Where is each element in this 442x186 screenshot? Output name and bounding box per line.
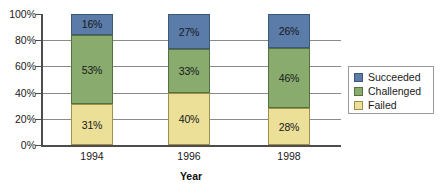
legend-swatch-icon [354,73,363,82]
bar-group-1994[interactable]: 16% 53% 31% [71,14,113,145]
bar-segment-failed[interactable]: 28% [268,108,310,145]
bar-segment-succeeded[interactable]: 26% [268,14,310,48]
bar-segment-challenged[interactable]: 46% [268,48,310,108]
bar-segment-label: 27% [179,27,200,37]
bar-segment-challenged[interactable]: 53% [71,35,113,104]
y-tick-label-80: 80% [0,35,36,45]
bar-segment-label: 46% [279,73,300,83]
x-axis-line [41,145,341,147]
bar-segment-label: 33% [179,66,200,76]
bar-segment-label: 53% [82,65,103,75]
y-axis-labels: 100% 80% 60% 40% 20% 0% [0,0,36,186]
legend-item-failed[interactable]: Failed [354,99,433,112]
x-axis-title: Year [41,170,341,182]
legend-item-challenged[interactable]: Challenged [354,85,433,98]
bar-segment-challenged[interactable]: 33% [168,49,210,92]
bar-segment-label: 16% [82,19,103,29]
stacked-column-chart: 100% 80% 60% 40% 20% 0% 16% 53% [0,0,442,186]
y-tick-label-100: 100% [0,9,36,19]
x-tick-label-1996: 1996 [159,150,219,162]
bar-segment-failed[interactable]: 40% [168,93,210,145]
bar-segment-label: 28% [279,122,300,132]
y-tick-label-0: 0% [0,140,36,150]
plot-area: 16% 53% 31% 27% 33% 40% 26% [41,14,341,145]
y-tick-label-20: 20% [0,114,36,124]
bar-group-1996[interactable]: 27% 33% 40% [168,14,210,145]
legend: Succeeded Challenged Failed [348,66,434,114]
legend-swatch-icon [354,101,363,110]
bar-segment-succeeded[interactable]: 27% [168,14,210,49]
bar-segment-label: 31% [82,120,103,130]
legend-swatch-icon [354,87,363,96]
y-tick-label-60: 60% [0,61,36,71]
x-tick-label-1994: 1994 [62,150,122,162]
bar-segment-succeeded[interactable]: 16% [71,14,113,35]
x-tick-label-1998: 1998 [259,150,319,162]
bar-group-1998[interactable]: 26% 46% 28% [268,14,310,145]
bar-segment-label: 26% [279,26,300,36]
legend-label: Challenged [368,86,421,97]
y-tick-label-40: 40% [0,88,36,98]
bar-segment-label: 40% [179,114,200,124]
legend-label: Failed [368,100,397,111]
legend-item-succeeded[interactable]: Succeeded [354,71,433,84]
x-axis-labels: 1994 1996 1998 [41,150,341,166]
legend-label: Succeeded [368,72,421,83]
bar-segment-failed[interactable]: 31% [71,104,113,145]
